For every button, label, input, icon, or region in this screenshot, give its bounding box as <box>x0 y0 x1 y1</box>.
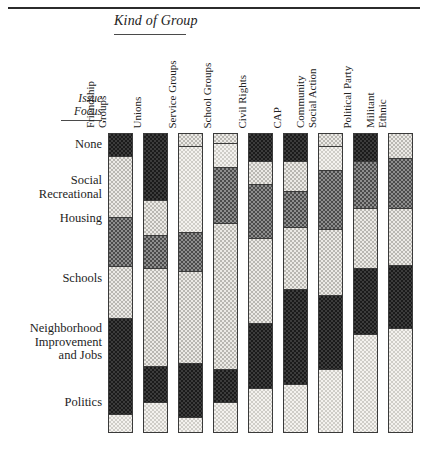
column-group-title-rule <box>114 34 186 35</box>
bar-segment-unions-politics <box>144 402 167 432</box>
bar-segment-militant-ethnic-social-recreational <box>389 134 412 158</box>
column-header-label2-militant-ethnic: Ethnic <box>377 93 389 128</box>
bar-segment-militant-ethnic-politics <box>389 328 412 432</box>
row-label-line: None <box>75 137 102 151</box>
bar-segment-service-groups-none <box>179 134 202 146</box>
column-header-label-political-party: Political Party <box>342 65 354 128</box>
bar-segment-cap-housing <box>284 191 307 228</box>
top-rule <box>8 7 420 9</box>
column-header-label-militant-ethnic: MilitantEthnic <box>365 93 388 128</box>
bar-segment-community-social-action-housing <box>319 170 342 230</box>
column-header-label-community-social-action: CommunitySocial Action <box>295 68 318 128</box>
column-group-title: Kind of Group <box>114 13 198 29</box>
bar-segment-unions-social-recreational <box>144 200 167 236</box>
bar-segment-civil-rights-schools <box>249 238 272 322</box>
bar-segment-service-groups-politics <box>179 417 202 432</box>
bar-segment-community-social-action-neighborhood-improvement-and-jobs <box>319 295 342 370</box>
bar-segment-friendship-groups-housing <box>109 217 132 266</box>
bar-segment-service-groups-neighborhood-improvement-and-jobs <box>179 363 202 417</box>
bar-segment-friendship-groups-social-recreational <box>109 156 132 218</box>
bar-segment-friendship-groups-schools <box>109 266 132 318</box>
bar-segment-political-party-politics <box>354 334 377 432</box>
bar-segment-political-party-schools <box>354 208 377 268</box>
row-label-schools: Schools <box>0 272 102 286</box>
row-label-neighborhood-improvement-and-jobs: NeighborhoodImprovementand Jobs <box>0 322 102 363</box>
row-label-line: Neighborhood <box>30 321 102 335</box>
column-header-militant-ethnic: MilitantEthnic <box>388 36 414 128</box>
bar-segment-civil-rights-none <box>249 134 272 161</box>
bar-segment-unions-neighborhood-improvement-and-jobs <box>144 366 167 402</box>
bar-segment-community-social-action-social-recreational <box>319 146 342 170</box>
row-label-line: Housing <box>60 211 102 225</box>
row-label-line: Politics <box>64 395 102 409</box>
bar-segment-unions-none <box>144 134 167 200</box>
column-header-label-cap: CAP <box>272 107 284 128</box>
bar-segment-militant-ethnic-neighborhood-improvement-and-jobs <box>389 265 412 328</box>
bar-segment-civil-rights-housing <box>249 184 272 239</box>
bar-service-groups <box>178 133 203 433</box>
bar-segment-school-groups-none <box>214 134 237 143</box>
bar-segment-service-groups-housing <box>179 232 202 271</box>
bar-cap <box>283 133 308 433</box>
bar-civil-rights <box>248 133 273 433</box>
bar-school-groups <box>213 133 238 433</box>
chart-figure: Kind of Group Issue Focus FriendshipGrou… <box>0 0 428 449</box>
row-label-line: Schools <box>62 271 102 285</box>
row-label-politics: Politics <box>0 396 102 410</box>
bar-segment-school-groups-neighborhood-improvement-and-jobs <box>214 369 237 402</box>
bar-unions <box>143 133 168 433</box>
bar-segment-service-groups-social-recreational <box>179 146 202 232</box>
row-label-line: Social <box>71 173 102 187</box>
row-label-housing: Housing <box>0 212 102 226</box>
bar-segment-political-party-housing <box>354 161 377 209</box>
column-header-label-service-groups: Service Groups <box>167 60 179 128</box>
bar-segment-community-social-action-schools <box>319 229 342 295</box>
bar-segment-friendship-groups-politics <box>109 414 132 432</box>
bar-segment-school-groups-housing <box>214 167 237 224</box>
bar-segment-political-party-neighborhood-improvement-and-jobs <box>354 268 377 334</box>
bar-segment-school-groups-politics <box>214 402 237 432</box>
column-header-label-friendship-groups: FriendshipGroups <box>85 81 108 128</box>
bar-community-social-action <box>318 133 343 433</box>
row-label-none: None <box>0 138 102 152</box>
bar-segment-unions-housing <box>144 235 167 268</box>
column-header-label-civil-rights: Civil Rights <box>237 75 249 129</box>
bar-segment-service-groups-schools <box>179 271 202 363</box>
bar-segment-cap-neighborhood-improvement-and-jobs <box>284 289 307 384</box>
bar-segment-friendship-groups-neighborhood-improvement-and-jobs <box>109 318 132 414</box>
bar-segment-civil-rights-politics <box>249 388 272 432</box>
column-header-label2-friendship-groups: Groups <box>97 81 109 128</box>
bar-segment-unions-schools <box>144 268 167 366</box>
bar-segment-cap-schools <box>284 227 307 289</box>
bar-segment-civil-rights-social-recreational <box>249 161 272 184</box>
bar-segment-school-groups-social-recreational <box>214 143 237 167</box>
bar-segment-school-groups-schools <box>214 223 237 369</box>
bar-segment-civil-rights-neighborhood-improvement-and-jobs <box>249 323 272 389</box>
column-header-label-unions: Unions <box>132 96 144 128</box>
row-label-line: Improvement <box>35 335 102 349</box>
bar-segment-cap-politics <box>284 384 307 432</box>
bar-segment-militant-ethnic-schools <box>389 208 412 265</box>
bar-segment-cap-none <box>284 134 307 161</box>
bar-segment-political-party-none <box>354 134 377 161</box>
bar-segment-community-social-action-politics <box>319 369 342 432</box>
bar-militant-ethnic <box>388 133 413 433</box>
bar-segment-cap-social-recreational <box>284 161 307 191</box>
bar-political-party <box>353 133 378 433</box>
bar-segment-friendship-groups-none <box>109 134 132 156</box>
column-header-label-school-groups: School Groups <box>202 62 214 128</box>
bar-segment-militant-ethnic-housing <box>389 158 412 209</box>
column-header-label2-community-social-action: Social Action <box>307 68 319 128</box>
bar-segment-community-social-action-none <box>319 134 342 146</box>
row-label-social-recreational: SocialRecreational <box>0 174 102 201</box>
row-label-line: and Jobs <box>59 348 102 362</box>
bar-friendship-groups <box>108 133 133 433</box>
row-label-line: Recreational <box>39 187 102 201</box>
